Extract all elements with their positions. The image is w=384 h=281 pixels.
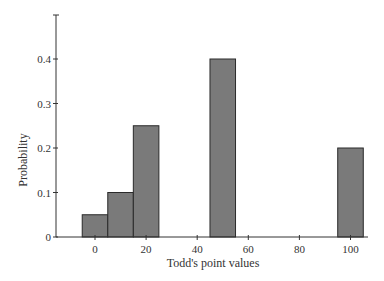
y-tick-label: 0.1 [37, 187, 51, 199]
x-tick-label: 20 [141, 243, 153, 255]
y-tick-label: 0.2 [37, 142, 51, 154]
x-tick-label: 100 [342, 243, 359, 255]
y-tick-label: 0 [46, 231, 52, 243]
bar-50 [210, 59, 236, 237]
bar-20 [133, 126, 159, 237]
bar-10 [108, 193, 134, 238]
y-tick-label: 0.3 [37, 98, 51, 110]
bar-0 [82, 215, 108, 237]
probability-histogram: 00.10.20.30.4020406080100Todd's point va… [0, 0, 384, 281]
x-tick-label: 60 [243, 243, 255, 255]
y-axis-title: Probability [16, 133, 30, 186]
bar-100 [338, 148, 364, 237]
x-axis-title: Todd's point values [167, 256, 260, 270]
x-tick-label: 80 [294, 243, 306, 255]
x-tick-label: 40 [192, 243, 204, 255]
x-tick-label: 0 [92, 243, 98, 255]
y-tick-label: 0.4 [37, 53, 51, 65]
bars [82, 59, 363, 237]
